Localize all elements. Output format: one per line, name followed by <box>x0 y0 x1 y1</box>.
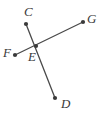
point-e-dot <box>34 44 38 48</box>
point-g-dot <box>81 20 85 24</box>
point-f-dot <box>13 53 17 57</box>
point-label-f: F <box>3 46 11 59</box>
point-d-dot <box>53 96 57 100</box>
point-label-g: G <box>87 12 96 25</box>
segment-fg <box>15 22 83 55</box>
point-label-e: E <box>28 50 36 63</box>
geometry-figure: C G F E D <box>0 0 104 115</box>
point-c-dot <box>24 22 28 26</box>
point-label-c: C <box>24 5 33 18</box>
point-label-d: D <box>61 97 70 110</box>
